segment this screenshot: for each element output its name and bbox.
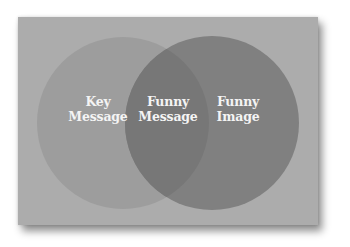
label-line: Image: [217, 109, 260, 124]
label-line: Funny: [138, 94, 197, 109]
label-line: Funny: [217, 94, 260, 109]
label-key-message: Key Message: [68, 94, 127, 124]
label-funny-message: Funny Message: [138, 94, 197, 124]
label-line: Message: [68, 109, 127, 124]
venn-card: Key Message Funny Message Funny Image: [18, 17, 318, 225]
label-line: Message: [138, 109, 197, 124]
label-funny-image: Funny Image: [217, 94, 260, 124]
venn-diagram-image: Key Message Funny Message Funny Image: [0, 0, 350, 247]
label-line: Key: [68, 94, 127, 109]
